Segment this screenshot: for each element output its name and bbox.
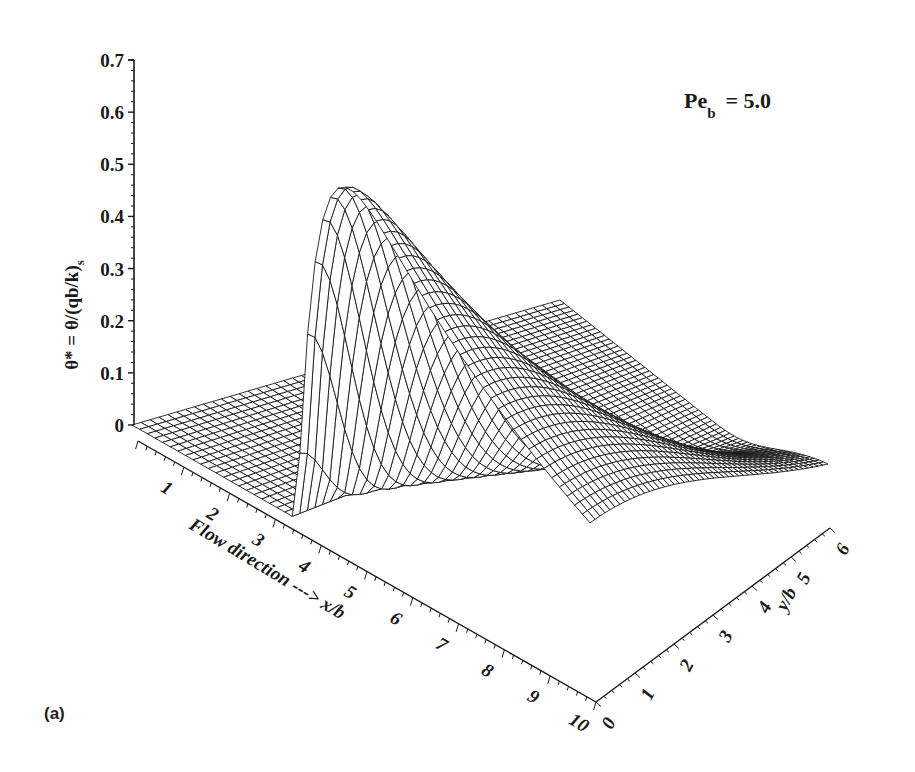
z-tick-label: 0.7 — [100, 50, 124, 71]
x-tick-label: 8 — [478, 659, 497, 682]
y-tick-label: 0 — [597, 713, 620, 732]
y-tick-label: 6 — [831, 539, 854, 558]
x-tick-label: 9 — [524, 685, 543, 708]
z-tick-label: 0.2 — [100, 311, 124, 332]
z-tick-label: 0.5 — [100, 154, 124, 175]
z-axis: 00.10.20.30.40.50.60.7 — [100, 50, 134, 436]
surface-plot: 00.10.20.30.40.50.60.7 12345678910 01234… — [0, 0, 915, 772]
panel-label: (a) — [44, 704, 65, 724]
peclet-annotation: Peb= 5.0 — [684, 88, 771, 121]
z-tick-label: 0.3 — [100, 259, 124, 280]
z-axis-title: θ* = θ/(qb/k)s — [61, 260, 87, 370]
z-tick-label: 0 — [115, 415, 125, 436]
y-axis: 0123456 — [596, 528, 854, 732]
x-tick-label: 6 — [387, 607, 406, 630]
y-tick-label: 5 — [792, 568, 815, 587]
x-tick-label: 5 — [341, 580, 360, 603]
wireframe-surface — [132, 187, 828, 523]
y-tick-label: 3 — [713, 627, 736, 646]
z-tick-label: 0.4 — [100, 206, 124, 227]
x-tick-label: 1 — [158, 476, 177, 499]
z-tick-label: 0.6 — [100, 102, 124, 123]
y-tick-label: 2 — [674, 655, 698, 675]
x-tick-label: 10 — [566, 709, 594, 737]
x-tick-label: 7 — [432, 633, 452, 657]
x-axis-title: Flow direction ---> x/b — [185, 513, 349, 623]
z-tick-label: 0.1 — [100, 363, 124, 384]
y-axis-title: y/b — [770, 584, 800, 616]
y-tick-label: 1 — [636, 685, 659, 703]
